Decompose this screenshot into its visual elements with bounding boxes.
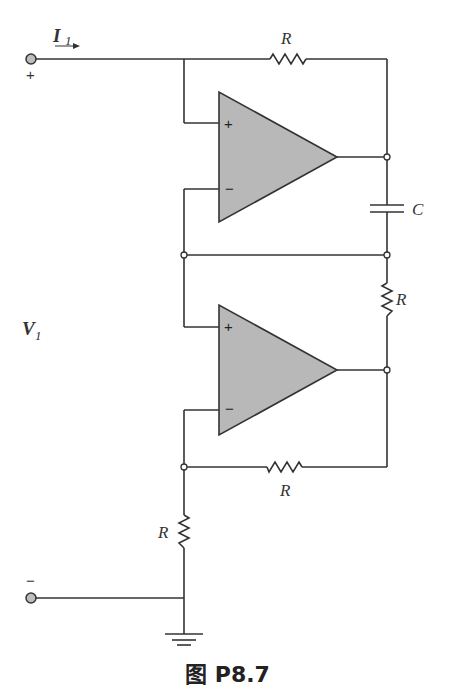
resistor-top — [270, 54, 306, 64]
resistor-ground — [179, 515, 189, 548]
voltage-label: V — [22, 318, 36, 339]
current-subscript: 1 — [65, 33, 72, 48]
capacitor-label: C — [412, 200, 424, 219]
opamp-1 — [219, 92, 337, 222]
current-label: I — [52, 25, 61, 46]
resistor-feedback-label: R — [279, 481, 291, 500]
minus-sign: − — [26, 572, 35, 589]
resistor-feedback — [267, 462, 302, 472]
resistor-right — [382, 283, 392, 316]
resistor-ground-label: R — [157, 523, 169, 542]
figure-caption: 图 P8.7 — [0, 656, 455, 688]
opamp-2 — [219, 305, 337, 435]
opamp1-plus: + — [224, 115, 233, 132]
voltage-subscript: 1 — [35, 328, 42, 343]
resistor-right-label: R — [395, 290, 407, 309]
current-arrow-icon — [73, 43, 80, 49]
opamp2-minus: − — [225, 400, 234, 417]
resistor-top-label: R — [280, 29, 292, 48]
opamp1-minus: − — [225, 180, 234, 197]
opamp2-plus: + — [224, 318, 233, 335]
minus-terminal — [26, 593, 36, 603]
circuit-diagram: I 1 + − V 1 R R R R C + − + − — [0, 0, 455, 692]
plus-terminal — [26, 54, 36, 64]
plus-sign: + — [26, 66, 35, 83]
